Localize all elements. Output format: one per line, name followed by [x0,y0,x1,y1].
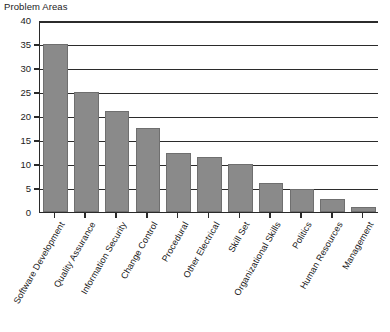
bar [197,157,222,212]
y-tick-40: 40 [20,15,39,27]
x-tick-mark [362,213,364,218]
y-tick-5: 5 [26,183,39,195]
x-tick-mark [115,213,117,218]
x-tick-label: Management [340,220,375,271]
bar [166,153,191,212]
y-tick-label: 40 [20,16,34,26]
x-tick-label: Software Development [12,220,67,306]
y-tick-15: 15 [20,135,39,147]
x-tick-mark [177,213,179,218]
y-tick-35: 35 [20,39,39,51]
x-axis: Software DevelopmentQuality AssuranceInf… [39,213,378,332]
y-tick-label: 0 [26,208,34,218]
x-tick-mark [269,213,271,218]
y-tick-label: 30 [20,64,34,74]
y-axis: 0510152025303540 [0,21,39,213]
chart-title: Problem Areas [4,1,68,12]
x-tick-mark [331,213,333,218]
bar [351,207,376,212]
x-tick-label: Politics [290,220,313,250]
x-tick-label: Procedural [159,220,190,264]
y-tick-25: 25 [20,87,39,99]
x-tick-mark [239,213,241,218]
x-tick-mark [300,213,302,218]
bar [74,92,99,212]
bar [136,128,161,212]
bar [43,44,68,212]
x-tick-label: Skill Set [227,220,252,254]
plot-area [39,21,378,213]
y-tick-label: 25 [20,88,34,98]
bar [259,183,284,212]
x-tick-mark [54,213,56,218]
y-tick-30: 30 [20,63,39,75]
y-tick-0: 0 [26,207,39,219]
y-tick-20: 20 [20,111,39,123]
problem-areas-bar-chart: Problem Areas 0510152025303540 Software … [0,0,390,332]
bar [320,199,345,212]
x-tick-mark [84,213,86,218]
bar [290,189,315,212]
bar-series [40,21,378,212]
bar [105,111,130,212]
y-tick-10: 10 [20,159,39,171]
bar [228,164,253,212]
x-tick-mark [146,213,148,218]
y-tick-label: 5 [26,184,34,194]
y-tick-label: 35 [20,40,34,50]
y-tick-label: 10 [20,160,34,170]
y-tick-label: 15 [20,136,34,146]
y-tick-label: 20 [20,112,34,122]
x-tick-mark [208,213,210,218]
